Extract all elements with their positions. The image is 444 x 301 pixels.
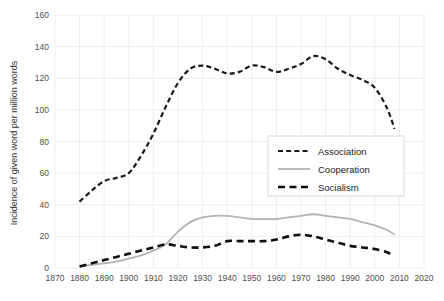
chart-legend: AssociationCooperationSocialism bbox=[268, 136, 404, 196]
y-tick-label: 100 bbox=[35, 105, 49, 115]
x-tick-label: 2010 bbox=[390, 273, 409, 283]
x-tick-label: 1930 bbox=[193, 273, 212, 283]
x-tick-label: 1890 bbox=[95, 273, 114, 283]
x-tick-label: 2000 bbox=[365, 273, 384, 283]
chart-container: 020406080100120140160 187018801890190019… bbox=[0, 0, 444, 301]
legend-label: Cooperation bbox=[318, 164, 370, 175]
x-tick-label: 1880 bbox=[70, 273, 89, 283]
y-tick-label: 160 bbox=[35, 10, 49, 20]
x-tick-label: 1870 bbox=[46, 273, 65, 283]
legend-label: Socialism bbox=[318, 182, 359, 193]
x-tick-label: 1980 bbox=[316, 273, 335, 283]
x-tick-label: 2020 bbox=[415, 273, 434, 283]
x-tick-label: 1940 bbox=[218, 273, 237, 283]
x-tick-label: 1900 bbox=[119, 273, 138, 283]
x-tick-label: 1910 bbox=[144, 273, 163, 283]
x-tick-label: 1990 bbox=[341, 273, 360, 283]
x-tick-label: 1960 bbox=[267, 273, 286, 283]
y-tick-label: 40 bbox=[40, 200, 50, 210]
y-tick-label: 60 bbox=[40, 168, 50, 178]
x-tick-label: 1920 bbox=[169, 273, 188, 283]
x-tick-label: 1970 bbox=[292, 273, 311, 283]
y-axis-title: Incidence of given word per million word… bbox=[9, 60, 19, 225]
legend-label: Association bbox=[318, 146, 367, 157]
x-tick-label: 1950 bbox=[242, 273, 261, 283]
y-tick-label: 140 bbox=[35, 42, 49, 52]
y-tick-label: 20 bbox=[40, 231, 50, 241]
y-tick-label: 80 bbox=[40, 137, 50, 147]
y-tick-label: 0 bbox=[44, 263, 49, 273]
y-tick-label: 120 bbox=[35, 73, 49, 83]
line-chart: 020406080100120140160 187018801890190019… bbox=[0, 0, 444, 301]
